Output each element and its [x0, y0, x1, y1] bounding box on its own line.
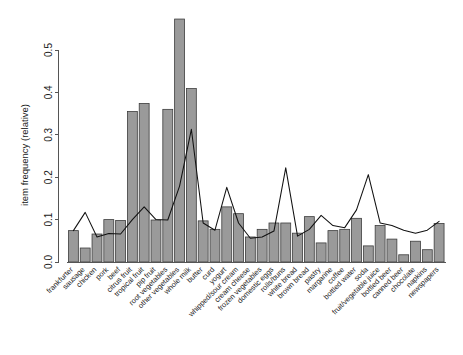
bar: newspapers: 0.091 [434, 223, 444, 262]
bar: margarine: 0.074 [328, 231, 338, 262]
bar: sausage: 0.033 [80, 248, 90, 262]
y-axis-tick-label: 0.0 [43, 255, 54, 269]
y-axis-tick-label: 0.1 [43, 212, 54, 226]
y-axis-title: item frequency (relative) [19, 104, 30, 206]
bar: bottled water: 0.103 [352, 218, 362, 262]
bar: brown bread: 0.107 [304, 217, 314, 262]
bar: canned beer: 0.017 [399, 255, 409, 262]
bar: frankfurter: 0.074 [68, 231, 78, 262]
bar: pastry: 0.045 [316, 243, 326, 262]
chart-canvas: item frequency (relative) 0.00.10.20.30.… [0, 0, 463, 355]
y-axis-tick-label: 0.4 [43, 85, 54, 99]
bar: other vegetables: 0.573 [175, 19, 185, 262]
bar: pip fruit: 0.099 [151, 220, 161, 262]
bar: soda: 0.038 [363, 246, 373, 262]
y-axis-title-text: item frequency (relative) [19, 104, 30, 206]
y-axis-tick-label: 0.3 [43, 127, 54, 141]
bar: white bread: 0.068 [293, 233, 303, 262]
bar: whole milk: 0.409 [186, 89, 196, 262]
bar: tropical fruit: 0.374 [139, 103, 149, 262]
bar: yogurt: 0.13 [222, 207, 232, 262]
bar: fruit/vegetable juice: 0.086 [375, 226, 385, 262]
y-axis-tick-label: 0.2 [43, 170, 54, 184]
bar: coffee: 0.077 [340, 229, 350, 262]
bar: beef: 0.098 [116, 220, 126, 262]
bar: whipped/sour cream: 0.114 [234, 214, 244, 262]
y-axis-tick-label: 0.5 [43, 43, 54, 57]
bar: bottled beer: 0.054 [387, 239, 397, 262]
bar: cream cheese: 0.059 [245, 237, 255, 262]
bar: chocolate: 0.049 [411, 241, 421, 262]
bar: chicken: 0.066 [92, 234, 102, 262]
item-frequency-chart: item frequency (relative) 0.00.10.20.30.… [0, 0, 463, 355]
bar: frozen vegetables: 0.077 [257, 229, 267, 262]
bar: napkins: 0.029 [422, 250, 432, 262]
bar: root vegetables: 0.36 [163, 109, 173, 262]
bar: butter: 0.097 [198, 221, 208, 262]
bar: rolls/buns: 0.092 [281, 223, 291, 262]
bar: citrus fruit: 0.355 [127, 111, 137, 262]
bar: pork: 0.1 [104, 220, 114, 262]
bar: curd: 0.077 [210, 229, 220, 262]
